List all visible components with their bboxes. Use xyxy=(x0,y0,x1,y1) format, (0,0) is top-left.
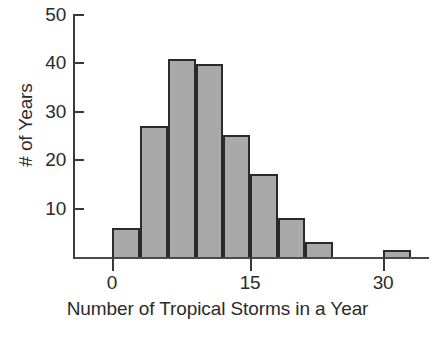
x-axis-title: Number of Tropical Storms in a Year xyxy=(0,298,435,320)
bar-bin-6-9 xyxy=(168,59,196,259)
y-tick-50 xyxy=(73,14,84,16)
x-tick-30 xyxy=(383,257,385,271)
y-tick-40 xyxy=(73,62,84,64)
bar-bin-3-6 xyxy=(140,126,168,259)
histogram-figure: 50 40 30 20 10 0 xyxy=(0,0,435,344)
bar-bin-18-21 xyxy=(278,218,305,259)
y-tick-label-wrap-50: 50 xyxy=(30,4,66,24)
y-axis-line xyxy=(73,14,75,259)
x-tick-15 xyxy=(250,257,252,271)
plot-area: 50 40 30 20 10 0 xyxy=(0,0,435,344)
y-axis-title: # of Years xyxy=(15,55,37,195)
bar-bin-9-12 xyxy=(196,64,223,259)
x-tick-label-30: 30 xyxy=(358,272,408,294)
y-tick-label-30: 30 xyxy=(34,101,66,123)
y-tick-20 xyxy=(73,159,84,161)
x-tick-0 xyxy=(112,257,114,271)
y-tick-label-50: 50 xyxy=(34,4,66,26)
y-tick-label-40: 40 xyxy=(34,52,66,74)
y-tick-10 xyxy=(73,208,84,210)
bar-bin-0-3 xyxy=(112,228,140,259)
y-tick-label-wrap-10: 10 xyxy=(30,198,66,218)
y-tick-label-10: 10 xyxy=(34,198,66,220)
x-tick-label-0: 0 xyxy=(87,272,137,294)
bar-bin-15-18 xyxy=(250,174,278,259)
bar-bin-12-15 xyxy=(223,135,250,259)
y-tick-30 xyxy=(73,111,84,113)
y-tick-label-20: 20 xyxy=(34,149,66,171)
x-tick-label-15: 15 xyxy=(225,272,275,294)
